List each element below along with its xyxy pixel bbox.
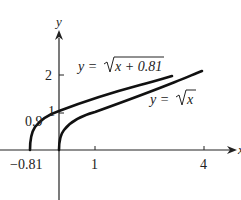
x-tick-label-1: 1	[91, 157, 98, 172]
curve-sqrt-x	[59, 71, 202, 150]
label-lower-curve: y = x	[148, 90, 196, 107]
x-tick-label-neg081: −0.81	[10, 157, 42, 172]
lower-label-radicand: x	[186, 92, 194, 107]
function-graph: y x 2 1 0.9 −0.81 1 4 y = x + 0.81 y = x	[0, 0, 241, 200]
upper-label-prefix: y =	[76, 59, 101, 74]
y-intercept-label-09: 0.9	[25, 114, 43, 129]
y-tick-label-1: 1	[48, 104, 55, 119]
x-tick-label-4: 4	[200, 157, 207, 172]
x-axis-label: x	[237, 142, 241, 157]
y-tick-label-2: 2	[45, 68, 52, 83]
y-axis-label: y	[54, 14, 62, 29]
label-upper-curve: y = x + 0.81	[76, 57, 164, 74]
lower-label-prefix: y =	[148, 92, 173, 107]
upper-label-radicand: x + 0.81	[114, 59, 162, 74]
